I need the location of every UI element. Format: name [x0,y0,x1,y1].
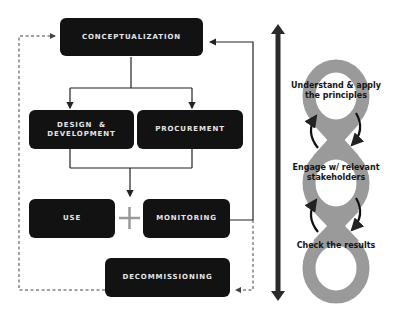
cycle-step-understand-line2: the principles [291,91,381,101]
decommissioning-box: DECOMMISSIONING [105,258,230,297]
cycle-step-engage: Engage w/ relevant stakeholders [291,163,381,183]
cycle-step-understand-line1: Understand & apply [291,81,381,91]
design-development-label-line1: DESIGN & [57,121,106,130]
use-label: USE [63,214,81,223]
merge-connector [70,149,192,196]
cycle-step-check-line1: Check the results [291,241,381,251]
design-development-label-line2: DEVELOPMENT [47,130,115,139]
procurement-label: PROCUREMENT [155,125,225,134]
use-box: USE [29,199,115,238]
split-connector [70,57,192,108]
cycle-step-engage-line1: Engage w/ relevant [291,163,381,173]
cycle-step-understand: Understand & apply the principles [291,81,381,101]
conceptualization-label: CONCEPTUALIZATION [82,33,181,42]
monitoring-box: MONITORING [143,199,230,238]
double-arrow-icon [271,24,285,301]
decommissioning-label: DECOMMISSIONING [122,273,212,282]
decommission-dashed-arrow [236,220,253,290]
cycle-step-check: Check the results [291,241,381,251]
design-development-box: DESIGN & DEVELOPMENT [29,110,134,149]
monitoring-label: MONITORING [156,214,217,223]
restart-dashed-arrow [19,36,105,290]
procurement-box: PROCUREMENT [137,110,243,149]
cycle-step-engage-line2: stakeholders [291,173,381,183]
plus-icon [119,207,140,229]
conceptualization-box: CONCEPTUALIZATION [60,18,203,56]
